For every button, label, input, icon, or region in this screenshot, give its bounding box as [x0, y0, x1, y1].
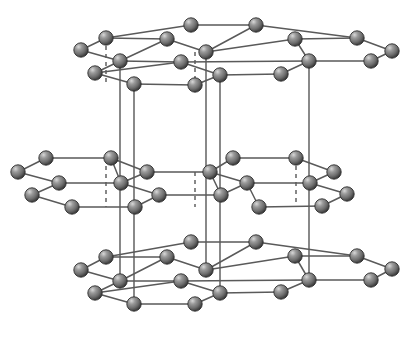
atom-sphere-middle-layer: [303, 176, 317, 190]
atom-sphere-middle-layer: [152, 188, 166, 202]
atom-sphere-bottom-layer: [288, 249, 302, 263]
bond-top-layer: [220, 74, 281, 75]
atom-sphere-top-layer: [350, 31, 364, 45]
atom-sphere-middle-layer: [65, 200, 79, 214]
atom-sphere-top-layer: [288, 32, 302, 46]
atom-sphere-middle-layer: [114, 176, 128, 190]
atom-sphere-middle-layer: [327, 165, 341, 179]
atom-sphere-top-layer: [74, 43, 88, 57]
atom-sphere-bottom-layer: [184, 235, 198, 249]
bond-top-layer: [106, 38, 167, 39]
bond-top-layer: [295, 38, 357, 39]
atom-sphere-top-layer: [274, 67, 288, 81]
atom-sphere-top-layer: [184, 18, 198, 32]
atom-sphere-middle-layer: [214, 188, 228, 202]
bond-bottom-layer: [181, 280, 309, 281]
atom-sphere-top-layer: [249, 18, 263, 32]
graphite-structure-figure: [0, 0, 418, 345]
atom-sphere-top-layer: [160, 32, 174, 46]
atom-sphere-top-layer: [99, 31, 113, 45]
atom-sphere-middle-layer: [252, 200, 266, 214]
atom-sphere-top-layer: [88, 66, 102, 80]
atom-sphere-middle-layer: [203, 165, 217, 179]
atom-sphere-top-layer: [188, 78, 202, 92]
atom-sphere-top-layer: [174, 55, 188, 69]
atom-sphere-bottom-layer: [350, 249, 364, 263]
atom-sphere-top-layer: [127, 77, 141, 91]
atom-sphere-middle-layer: [240, 176, 254, 190]
atom-sphere-bottom-layer: [160, 250, 174, 264]
atom-sphere-bottom-layer: [74, 263, 88, 277]
atom-sphere-bottom-layer: [127, 297, 141, 311]
atom-sphere-middle-layer: [39, 151, 53, 165]
atom-sphere-top-layer: [213, 68, 227, 82]
atom-sphere-middle-layer: [104, 151, 118, 165]
atom-sphere-top-layer: [113, 54, 127, 68]
atom-sphere-bottom-layer: [88, 286, 102, 300]
crystal-lattice-canvas: [0, 0, 418, 345]
bond-middle-layer: [259, 206, 322, 207]
atom-sphere-middle-layer: [128, 200, 142, 214]
atom-sphere-middle-layer: [315, 199, 329, 213]
atom-sphere-top-layer: [302, 54, 316, 68]
atom-sphere-middle-layer: [52, 176, 66, 190]
atom-sphere-bottom-layer: [188, 297, 202, 311]
atom-sphere-middle-layer: [140, 165, 154, 179]
atom-sphere-bottom-layer: [99, 250, 113, 264]
bond-top-layer: [134, 84, 195, 85]
atom-sphere-bottom-layer: [174, 274, 188, 288]
atom-sphere-top-layer: [199, 45, 213, 59]
atom-sphere-bottom-layer: [274, 285, 288, 299]
atom-sphere-top-layer: [364, 54, 378, 68]
atom-sphere-bottom-layer: [213, 286, 227, 300]
atom-sphere-bottom-layer: [364, 273, 378, 287]
atom-sphere-bottom-layer: [249, 235, 263, 249]
atom-sphere-middle-layer: [11, 165, 25, 179]
atom-sphere-bottom-layer: [385, 262, 399, 276]
atom-sphere-bottom-layer: [302, 273, 316, 287]
bond-bottom-layer: [220, 292, 281, 293]
atom-sphere-bottom-layer: [113, 274, 127, 288]
atom-sphere-top-layer: [385, 44, 399, 58]
atom-sphere-middle-layer: [340, 187, 354, 201]
atom-sphere-middle-layer: [289, 151, 303, 165]
atom-sphere-middle-layer: [25, 188, 39, 202]
atom-sphere-bottom-layer: [199, 263, 213, 277]
bond-top-layer: [181, 61, 309, 62]
atom-sphere-middle-layer: [226, 151, 240, 165]
bond-top-layer: [120, 61, 181, 62]
